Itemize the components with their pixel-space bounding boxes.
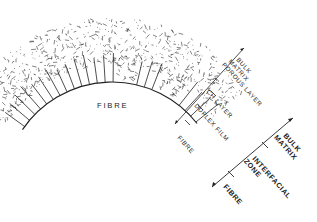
matrix-fleck — [31, 77, 32, 80]
matrix-fleck — [161, 57, 164, 58]
matrix-dot — [166, 61, 167, 62]
matrix-fleck — [223, 96, 226, 98]
matrix-fleck — [123, 78, 125, 81]
matrix-fleck — [40, 36, 42, 40]
matrix-dot — [62, 69, 63, 70]
matrix-fleck — [188, 77, 189, 80]
matrix-dot — [176, 64, 177, 65]
matrix-fleck — [160, 86, 161, 90]
matrix-fleck — [214, 76, 218, 77]
matrix-dot — [67, 47, 68, 48]
matrix-fleck — [199, 70, 200, 74]
matrix-dot — [57, 45, 58, 46]
matrix-dot — [171, 30, 172, 31]
matrix-dot — [4, 73, 5, 74]
matrix-dot — [112, 25, 113, 26]
matrix-fleck — [44, 51, 47, 52]
matrix-fleck — [121, 58, 123, 60]
matrix-fleck — [134, 79, 136, 81]
matrix-dot — [43, 42, 44, 43]
matrix-fleck — [34, 38, 37, 39]
matrix-fleck — [32, 66, 37, 67]
matrix-dot — [105, 50, 106, 51]
matrix-fleck — [215, 111, 216, 114]
matrix-fleck — [133, 37, 135, 40]
matrix-fleck — [109, 60, 111, 62]
matrix-dot — [222, 91, 223, 92]
matrix-fleck — [143, 31, 146, 33]
matrix-fleck — [95, 34, 98, 36]
matrix-fleck — [55, 74, 58, 75]
matrix-dot — [198, 85, 199, 86]
matrix-fleck — [4, 87, 5, 92]
matrix-dot — [169, 72, 170, 73]
matrix-dot — [13, 61, 14, 62]
interfacial-zone-diagram: FIBRE BULK MATRIX POROUS LAYER CH LAYER … — [0, 0, 317, 222]
matrix-dot — [8, 83, 9, 84]
radial-line — [74, 59, 82, 86]
matrix-dot — [156, 54, 157, 55]
radial-line — [57, 70, 67, 92]
matrix-dot — [111, 37, 112, 38]
matrix-dot — [169, 69, 170, 70]
matrix-dot — [34, 74, 35, 75]
matrix-fleck — [12, 86, 16, 87]
matrix-fleck — [133, 47, 134, 49]
matrix-dot — [228, 97, 229, 98]
matrix-fleck — [170, 94, 174, 95]
matrix-fleck — [116, 73, 119, 75]
matrix-dot — [56, 29, 57, 30]
matrix-dot — [90, 46, 91, 47]
matrix-fleck — [135, 72, 138, 74]
matrix-dot — [135, 48, 136, 49]
matrix-dot — [86, 26, 87, 27]
matrix-fleck — [167, 35, 168, 40]
matrix-fleck — [12, 72, 14, 73]
matrix-fleck — [49, 65, 54, 66]
matrix-dot — [231, 88, 232, 89]
matrix-dot — [24, 55, 25, 56]
matrix-fleck — [162, 80, 165, 81]
matrix-fleck — [139, 20, 141, 21]
matrix-dot — [117, 43, 118, 44]
matrix-fleck — [8, 75, 10, 79]
matrix-dot — [107, 51, 108, 52]
matrix-dot — [207, 78, 208, 79]
matrix-dot — [100, 43, 101, 44]
matrix-fleck — [111, 19, 112, 22]
matrix-fleck — [40, 62, 43, 63]
matrix-dot — [40, 73, 41, 74]
matrix-fleck — [107, 51, 110, 54]
matrix-dot — [35, 58, 36, 59]
matrix-dot — [71, 29, 72, 30]
matrix-dot — [6, 117, 7, 118]
matrix-dot — [157, 65, 158, 66]
matrix-fleck — [140, 27, 142, 30]
matrix-fleck — [74, 31, 77, 32]
matrix-fleck — [46, 58, 49, 60]
matrix-dot — [8, 93, 9, 94]
matrix-fleck — [229, 83, 234, 84]
matrix-fleck — [92, 38, 95, 40]
matrix-fleck — [76, 47, 80, 50]
radial-line — [94, 58, 97, 83]
matrix-dot — [216, 57, 217, 58]
matrix-dot — [10, 52, 11, 53]
matrix-dot — [36, 51, 37, 52]
matrix-fleck — [2, 97, 6, 98]
matrix-fleck — [2, 102, 5, 105]
matrix-fleck — [54, 40, 55, 44]
matrix-fleck — [51, 56, 52, 60]
matrix-fleck — [219, 87, 222, 91]
matrix-fleck — [10, 115, 12, 116]
matrix-fleck — [79, 42, 81, 44]
matrix-dot — [193, 55, 194, 56]
matrix-fleck — [79, 44, 84, 45]
matrix-dot — [138, 25, 139, 26]
matrix-dot — [61, 57, 62, 58]
matrix-fleck — [57, 58, 59, 59]
matrix-fleck — [145, 45, 146, 48]
outer-scale — [212, 118, 293, 187]
matrix-fleck — [88, 59, 91, 62]
matrix-dot — [108, 31, 109, 32]
